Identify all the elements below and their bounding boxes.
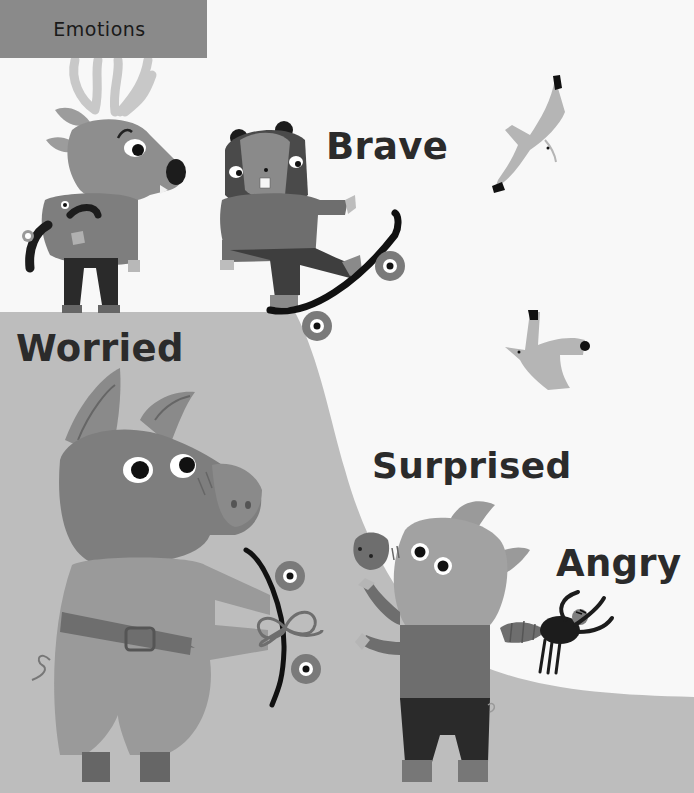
label-brave: Brave bbox=[326, 128, 448, 165]
book-page: Emotions Brave Worried Surprised Angry bbox=[0, 0, 694, 793]
deer bbox=[22, 60, 186, 313]
seagull-bottom bbox=[505, 310, 590, 390]
illustration bbox=[0, 0, 694, 793]
label-surprised: Surprised bbox=[372, 448, 572, 484]
section-tab: Emotions bbox=[0, 0, 207, 58]
section-tab-label: Emotions bbox=[53, 18, 145, 40]
label-angry: Angry bbox=[556, 545, 681, 582]
bug bbox=[500, 592, 612, 673]
label-worried: Worried bbox=[16, 330, 184, 367]
seagull-top bbox=[492, 75, 565, 193]
